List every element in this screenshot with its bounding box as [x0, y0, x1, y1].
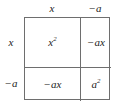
row-header-x-label: x [9, 37, 14, 48]
cell-bottom-left-label: −ax [44, 79, 62, 90]
cell-top-left: x2 [25, 18, 81, 68]
cell-bottom-left: −ax [25, 68, 81, 101]
row-header-minus-a: −a [0, 67, 22, 100]
cell-bottom-right-label: a2 [92, 79, 101, 90]
column-header-minus-a-label: −a [89, 3, 102, 14]
area-model-diagram: x −a x −a x2 −ax −ax a2 [0, 0, 116, 107]
cell-bottom-right: a2 [81, 68, 111, 101]
cell-top-left-label: x2 [48, 37, 56, 48]
column-header-x: x [24, 1, 80, 15]
row-header-minus-a-label: −a [5, 78, 18, 89]
column-header-x-label: x [50, 3, 55, 14]
area-model-grid: x2 −ax −ax a2 [24, 17, 110, 100]
cell-top-right-label: −ax [87, 37, 105, 48]
column-header-minus-a: −a [80, 1, 110, 15]
row-header-x: x [0, 17, 22, 67]
cell-top-right: −ax [81, 18, 111, 68]
